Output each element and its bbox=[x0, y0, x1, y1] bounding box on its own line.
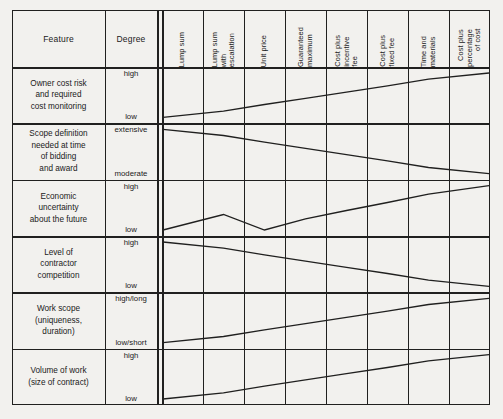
trend-line-3 bbox=[163, 186, 489, 230]
trend-line-2 bbox=[163, 129, 489, 173]
trend-line-1 bbox=[163, 73, 489, 117]
trend-line-6 bbox=[163, 355, 489, 399]
chart-table: FeatureDegreeLump sumLump sum with escal… bbox=[12, 10, 490, 405]
trend-lines-overlay bbox=[12, 10, 490, 405]
contract-type-selection-chart: FeatureDegreeLump sumLump sum with escal… bbox=[0, 0, 503, 419]
trend-line-4 bbox=[163, 242, 489, 286]
trend-line-5 bbox=[163, 298, 489, 342]
